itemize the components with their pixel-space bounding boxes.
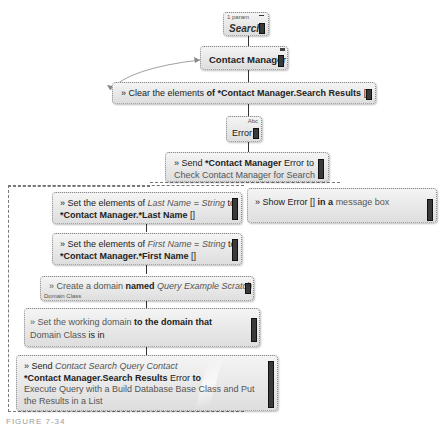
show-error-node[interactable]: » Show Error [] in a message box [247, 188, 437, 223]
search-node[interactable]: 1 param Search [223, 12, 269, 36]
handle-icon [278, 55, 284, 67]
send-query-node[interactable]: » Send Contact Search Query Contact *Con… [16, 355, 278, 411]
handle-icon [245, 283, 251, 294]
show-error-text: » Show Error [] in a message box [255, 197, 389, 207]
group-outline-top-left [8, 185, 150, 187]
clear-text: » Clear the elements of *Contact Manager… [121, 88, 369, 98]
handle-icon [253, 128, 259, 139]
handle-icon [232, 198, 238, 220]
set-first-name-node[interactable]: » Set the elements of First Name = Strin… [52, 233, 242, 265]
object-icon [280, 48, 285, 51]
connector [248, 142, 249, 152]
figure-caption: FIGURE 7-34 [6, 417, 65, 425]
send-error-node[interactable]: » Send *Contact Manager Error to Check C… [165, 152, 329, 182]
handle-icon [366, 89, 372, 100]
set-last-name-node[interactable]: » Set the elements of Last Name = String… [52, 192, 242, 224]
send-query-text: » Send Contact Search Query Contact *Con… [24, 361, 264, 407]
clear-elements-node[interactable]: » Clear the elements of *Contact Manager… [112, 82, 376, 104]
handle-icon [318, 159, 324, 179]
group-outline-top-right [150, 182, 340, 183]
connector [248, 70, 249, 82]
contact-manager-node[interactable]: Contact Manager [200, 46, 288, 70]
minus-icon [259, 15, 264, 16]
set-working-domain-node[interactable]: » Set the working domain to the domain t… [24, 308, 260, 347]
handle-icon [232, 239, 238, 261]
set-last-text: » Set the elements of Last Name = String… [60, 197, 235, 221]
error-title: Error [232, 128, 252, 138]
type-label: Abc [248, 118, 258, 124]
create-domain-node[interactable]: » Create a domain named Query Example Sc… [40, 276, 254, 301]
create-domain-text: » Create a domain named Query Example Sc… [49, 281, 252, 291]
set-first-text: » Set the elements of First Name = Strin… [60, 238, 235, 262]
contact-manager-title: Contact Manager [209, 54, 286, 65]
domain-class-label: Domain Class [44, 293, 81, 299]
handle-icon [259, 23, 265, 34]
set-working-text: » Set the working domain to the domain t… [30, 316, 240, 342]
connector [248, 36, 249, 46]
handle-icon [427, 199, 433, 221]
handle-icon [251, 318, 257, 342]
connector [248, 104, 249, 116]
error-node[interactable]: Abc Error [226, 116, 262, 142]
param-label: 1 param [227, 14, 249, 20]
search-title: Search [229, 23, 262, 34]
send-error-text: » Send *Contact Manager Error to Check C… [174, 157, 315, 181]
handle-icon [268, 361, 274, 408]
